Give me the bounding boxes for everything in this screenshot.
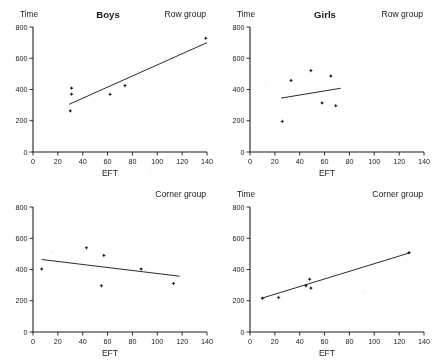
x-tick-label: 20 (54, 337, 62, 346)
data-point (172, 282, 175, 285)
y-axis-title: Time (237, 9, 256, 19)
x-tick-label: 140 (418, 157, 430, 166)
x-tick-label: 20 (271, 337, 279, 346)
x-tick-label: 40 (79, 337, 87, 346)
x-tick-label: 40 (296, 337, 304, 346)
chart-grid: Time Boys Row group EFT 0200400600800020… (0, 0, 434, 360)
panel-0-axes (30, 27, 208, 156)
data-point (204, 37, 207, 40)
y-tick-label: 200 (16, 116, 28, 125)
regression-line (42, 260, 180, 277)
y-tick-label: 0 (24, 148, 28, 157)
x-axis-title: EFT (102, 168, 119, 178)
panel-2-axes (30, 207, 208, 336)
panel-3-fit (261, 253, 410, 299)
y-tick-label: 800 (233, 203, 245, 212)
x-tick-label: 100 (368, 157, 380, 166)
x-tick-label: 80 (345, 337, 353, 346)
x-tick-label: 140 (201, 157, 213, 166)
x-tick-label: 0 (248, 337, 252, 346)
x-tick-label: 100 (368, 337, 380, 346)
panel-boys-row-group: Time Boys Row group EFT 0200400600800020… (0, 0, 217, 180)
panel-3-ticklabels: 0200400600800020406080100120140 (233, 203, 431, 346)
y-tick-label: 800 (16, 203, 28, 212)
data-point (309, 286, 312, 289)
data-point (261, 297, 264, 300)
x-axis-title: EFT (319, 168, 336, 178)
panel-0-fit (69, 43, 207, 105)
data-point (85, 246, 88, 249)
group-annotation: Corner group (155, 189, 206, 199)
x-tick-label: 80 (128, 157, 136, 166)
panel-1-ticklabels: 0200400600800020406080100120140 (233, 23, 431, 166)
y-tick-label: 400 (16, 85, 28, 94)
y-tick-label: 400 (233, 265, 245, 274)
data-point (100, 284, 103, 287)
data-point (308, 277, 311, 280)
x-tick-label: 40 (296, 157, 304, 166)
y-tick-label: 400 (16, 265, 28, 274)
panel-1-axes (247, 27, 425, 156)
y-tick-label: 600 (16, 234, 28, 243)
data-point (40, 267, 43, 270)
x-tick-label: 0 (248, 157, 252, 166)
data-point (309, 69, 312, 72)
data-point (289, 79, 292, 82)
x-tick-label: 60 (104, 337, 112, 346)
panel-title: Girls (314, 9, 336, 20)
panel-boys-corner-group: Corner group EFT 02004006008000204060801… (0, 180, 217, 360)
data-point (69, 109, 72, 112)
y-tick-label: 400 (233, 85, 245, 94)
y-axis-title: Time (20, 9, 39, 19)
y-tick-label: 0 (24, 328, 28, 337)
regression-line (281, 88, 341, 98)
panel-1-points (281, 69, 338, 123)
x-tick-label: 80 (128, 337, 136, 346)
panel-1-labels: Time Girls Row group EFT (237, 9, 423, 178)
x-tick-label: 120 (393, 157, 405, 166)
x-tick-label: 140 (418, 337, 430, 346)
panel-1-fit (281, 88, 341, 98)
panel-3-labels: Time Corner group EFT (237, 189, 423, 358)
panel-title: Boys (96, 9, 119, 20)
panel-0-ticklabels: 0200400600800020406080100120140 (16, 23, 214, 166)
y-tick-label: 600 (16, 54, 28, 63)
scatter-plot-boys-row-group: Time Boys Row group EFT 0200400600800020… (0, 0, 217, 180)
y-tick-label: 200 (233, 296, 245, 305)
data-point (329, 74, 332, 77)
scatter-plot-boys-corner-group: Corner group EFT 02004006008000204060801… (0, 180, 217, 360)
x-tick-label: 60 (321, 337, 329, 346)
y-tick-label: 800 (233, 23, 245, 32)
data-point (102, 254, 105, 257)
x-tick-label: 0 (31, 337, 35, 346)
group-annotation: Row group (381, 9, 423, 19)
x-tick-label: 120 (176, 157, 188, 166)
group-annotation: Corner group (372, 189, 423, 199)
data-point (281, 120, 284, 123)
regression-line (69, 43, 207, 105)
y-tick-label: 200 (233, 116, 245, 125)
x-tick-label: 80 (345, 157, 353, 166)
x-tick-label: 40 (79, 157, 87, 166)
x-tick-label: 20 (271, 157, 279, 166)
panel-girls-corner-group: Time Corner group EFT 020040060080002040… (217, 180, 434, 360)
x-tick-label: 120 (393, 337, 405, 346)
data-point (139, 267, 142, 270)
y-tick-label: 0 (241, 328, 245, 337)
regression-line (261, 253, 410, 299)
panel-2-points (40, 246, 175, 287)
x-tick-label: 20 (54, 157, 62, 166)
x-axis-title: EFT (102, 348, 119, 358)
y-tick-label: 600 (233, 234, 245, 243)
x-tick-label: 120 (176, 337, 188, 346)
data-point (123, 84, 126, 87)
x-tick-label: 60 (104, 157, 112, 166)
data-point (70, 86, 73, 89)
y-tick-label: 800 (16, 23, 28, 32)
y-tick-label: 0 (241, 148, 245, 157)
data-point (108, 93, 111, 96)
x-tick-label: 140 (201, 337, 213, 346)
panel-2-ticklabels: 0200400600800020406080100120140 (16, 203, 214, 346)
scatter-plot-girls-corner-group: Time Corner group EFT 020040060080002040… (217, 180, 434, 360)
panel-0-labels: Time Boys Row group EFT (20, 9, 206, 178)
